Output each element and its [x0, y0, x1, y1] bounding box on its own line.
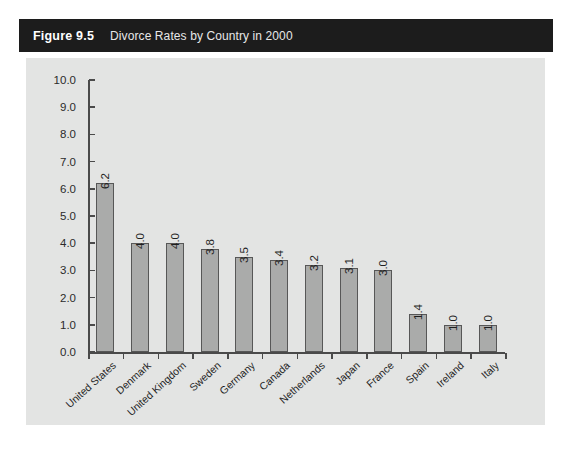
x-tick-mark [297, 353, 299, 359]
bar [340, 268, 358, 352]
x-category-label: Italy [478, 359, 500, 381]
y-tick-label: 10.0 [40, 74, 76, 86]
x-tick-mark [470, 353, 472, 359]
y-tick-label: 0.0 [40, 346, 76, 358]
y-tick-mark [89, 351, 95, 353]
figure-title: Divorce Rates by Country in 2000 [110, 29, 293, 43]
y-tick-mark [89, 134, 95, 136]
y-tick-label: 9.0 [40, 101, 76, 113]
figure-caption-bar: Figure 9.5 Divorce Rates by Country in 2… [19, 19, 553, 52]
y-tick-mark [89, 324, 95, 326]
x-tick-mark [331, 353, 333, 359]
x-category-label: Ireland [434, 359, 466, 389]
bar [235, 257, 253, 352]
bar-value-label: 4.0 [169, 233, 181, 249]
bar-value-label: 1.4 [412, 304, 424, 320]
x-tick-mark [192, 353, 194, 359]
y-tick-mark [89, 297, 95, 299]
bar [305, 265, 323, 352]
bar-value-label: 3.8 [204, 239, 216, 255]
bar-value-label: 1.0 [447, 315, 459, 331]
x-category-label: United States [64, 359, 119, 410]
bar [374, 270, 392, 352]
y-tick-mark [89, 106, 95, 108]
bar-value-label: 3.5 [238, 247, 250, 263]
x-tick-mark [401, 353, 403, 359]
bar [270, 260, 288, 352]
y-tick-label: 8.0 [40, 128, 76, 140]
x-category-label: France [364, 359, 396, 390]
bar-value-label: 3.2 [308, 255, 320, 271]
y-tick-label: 7.0 [40, 156, 76, 168]
y-tick-label: 3.0 [40, 264, 76, 276]
y-tick-label: 6.0 [40, 183, 76, 195]
x-tick-mark [436, 353, 438, 359]
y-tick-mark [89, 270, 95, 272]
x-tick-mark [227, 353, 229, 359]
x-tick-mark [262, 353, 264, 359]
y-tick-label: 5.0 [40, 210, 76, 222]
bar-value-label: 3.1 [343, 258, 355, 274]
bar-value-label: 1.0 [482, 315, 494, 331]
y-tick-label: 1.0 [40, 319, 76, 331]
chart-panel: 10.09.08.07.06.05.04.03.02.01.00.0 6.24.… [26, 58, 545, 425]
y-tick-mark [89, 215, 95, 217]
figure-number: Figure 9.5 [33, 29, 94, 43]
bar [201, 249, 219, 352]
bar-value-label: 3.0 [377, 260, 389, 276]
x-tick-mark [366, 353, 368, 359]
x-category-label: Japan [332, 359, 361, 387]
x-category-label: Spain [403, 359, 431, 386]
bar-value-label: 6.2 [99, 173, 111, 189]
y-tick-mark [89, 161, 95, 163]
y-tick-mark [89, 79, 95, 81]
x-tick-mark [88, 353, 90, 359]
bar [131, 243, 149, 352]
y-tick-label: 2.0 [40, 292, 76, 304]
bar-value-label: 3.4 [273, 250, 285, 266]
y-tick-label: 4.0 [40, 237, 76, 249]
y-tick-mark [89, 242, 95, 244]
bar-chart-plot-area: 10.09.08.07.06.05.04.03.02.01.00.0 6.24.… [26, 58, 545, 425]
x-category-label: Germany [217, 359, 257, 397]
bar [96, 183, 114, 352]
y-tick-mark [89, 188, 95, 190]
bar-value-label: 4.0 [134, 233, 146, 249]
x-tick-mark [505, 353, 507, 359]
x-tick-mark [158, 353, 160, 359]
x-tick-mark [123, 353, 125, 359]
bar [166, 243, 184, 352]
